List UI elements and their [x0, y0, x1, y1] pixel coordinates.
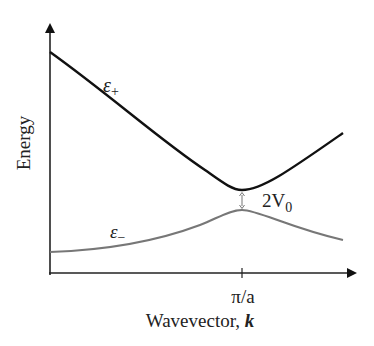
upper-band-label-sub: +: [111, 84, 119, 99]
upper-band-label-base: ε: [103, 74, 111, 96]
gap-label: 2V0: [262, 190, 292, 215]
lower-band-label-sub: −: [118, 230, 126, 245]
upper-band-curve: [50, 52, 343, 190]
gap-label-sub: 0: [285, 200, 292, 215]
x-axis-label: Wavevector, k: [146, 310, 255, 331]
x-axis-label-var: k: [245, 310, 255, 331]
upper-band-label: ε+: [103, 74, 119, 99]
lower-band-label: ε−: [110, 221, 126, 245]
x-tick-label: π/a: [231, 286, 255, 307]
band-gap-diagram: Energy ε+ ε− 2V0 π/a Wavevector, k: [0, 0, 374, 346]
x-axis-label-text: Wavevector,: [146, 310, 245, 331]
gap-label-main: 2V: [262, 190, 286, 211]
y-axis-label: Energy: [13, 115, 34, 170]
lower-band-curve: [50, 210, 343, 252]
